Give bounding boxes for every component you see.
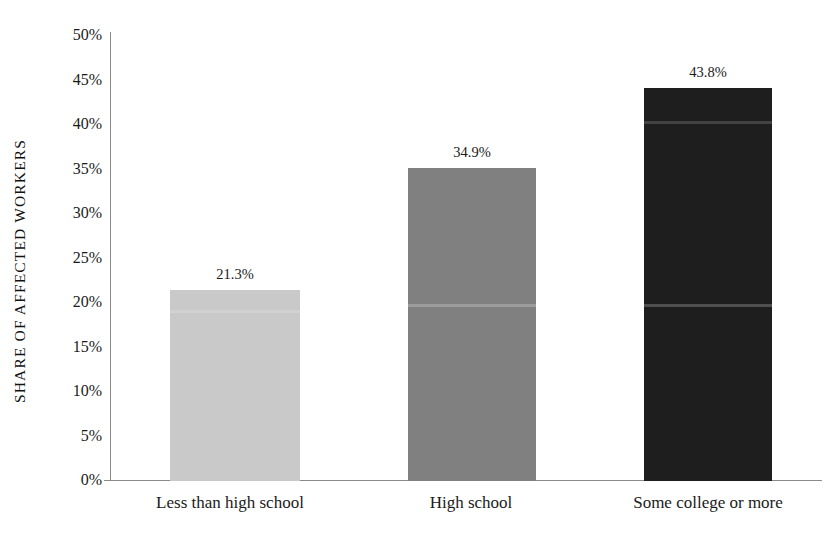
bar-rect (170, 290, 300, 481)
y-tick-label: 0% (44, 472, 102, 488)
plot-area: 21.3% 34.9% 43.8% (111, 32, 822, 481)
y-tick-label: 10% (44, 383, 102, 399)
y-tick-label: 15% (44, 339, 102, 355)
scan-band (644, 304, 772, 307)
bar-rect (408, 168, 536, 481)
scan-band (170, 310, 300, 313)
bar-value-label: 43.8% (689, 65, 726, 80)
bar-value-label: 21.3% (216, 267, 253, 282)
y-tick-label: 40% (44, 116, 102, 132)
y-axis-tick-labels: 50% 45% 40% 35% 30% 25% 20% 15% 10% 5% 0… (44, 0, 102, 542)
bar-chart: SHARE OF AFFECTED WORKERS 50% 45% 40% 35… (0, 0, 830, 542)
y-tick-label: 25% (44, 250, 102, 266)
y-tick-label: 5% (44, 428, 102, 444)
bar-value-label: 34.9% (453, 145, 490, 160)
y-tick-label: 35% (44, 161, 102, 177)
y-tick-label: 30% (44, 205, 102, 221)
bar-high-school[interactable]: 34.9% (408, 168, 536, 481)
scan-band (408, 304, 536, 307)
y-tick-label: 50% (44, 27, 102, 43)
x-axis-label-some-college-or-more: Some college or more (588, 492, 828, 514)
bar-rect (644, 88, 772, 481)
y-axis-title: SHARE OF AFFECTED WORKERS (0, 0, 40, 542)
x-axis-label-high-school: High school (351, 492, 591, 514)
x-axis-label-less-than-high-school: Less than high school (110, 492, 350, 514)
bar-some-college-or-more[interactable]: 43.8% (644, 88, 772, 481)
y-tick-label: 20% (44, 294, 102, 310)
scan-band (644, 121, 772, 124)
y-tick-label: 45% (44, 72, 102, 88)
bar-less-than-high-school[interactable]: 21.3% (170, 290, 300, 481)
